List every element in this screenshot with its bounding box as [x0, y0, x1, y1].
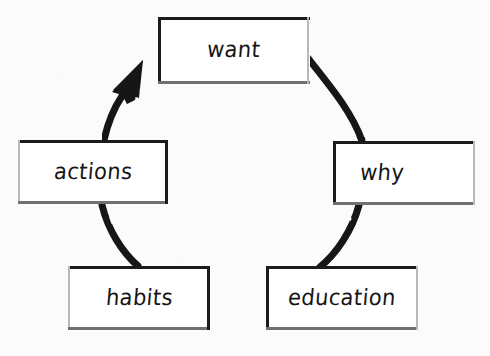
- node-why[interactable]: why: [333, 141, 475, 205]
- node-actions-border-left: [18, 140, 20, 204]
- node-actions[interactable]: actions: [18, 140, 168, 204]
- node-want-border-left: [158, 17, 161, 84]
- node-want-border-top: [158, 17, 310, 20]
- node-why-border-left: [333, 141, 336, 205]
- node-habits-border-top: [68, 266, 210, 269]
- node-why-border-right: [473, 141, 475, 205]
- node-education[interactable]: education: [266, 266, 418, 330]
- cycle-arrowhead-icon: [112, 60, 143, 104]
- node-actions-border-right: [165, 140, 168, 204]
- connector-why-to-education: [320, 205, 359, 267]
- connector-want-to-why: [307, 57, 362, 141]
- node-education-border-right: [416, 266, 418, 330]
- node-why-label: why: [359, 162, 405, 184]
- node-education-border-left: [266, 266, 269, 330]
- node-habits-border-left: [68, 266, 70, 330]
- connector-actions-to-want: [104, 96, 122, 140]
- node-why-border-bottom: [333, 202, 475, 205]
- cycle-arrowhead-fill-icon: [113, 60, 143, 98]
- node-education-border-bottom: [266, 327, 418, 330]
- node-habits[interactable]: habits: [68, 266, 210, 330]
- node-actions-border-top: [18, 140, 168, 143]
- node-habits-label: habits: [105, 287, 174, 309]
- node-want-border-right: [307, 17, 309, 84]
- connector-habits-to-actions: [102, 205, 138, 266]
- node-education-border-top: [266, 266, 418, 269]
- node-want-label: want: [206, 39, 261, 61]
- node-habits-border-bottom: [68, 327, 210, 330]
- node-education-label: education: [287, 287, 397, 309]
- node-actions-border-bottom: [18, 201, 168, 204]
- node-want[interactable]: want: [158, 17, 310, 84]
- node-want-border-bottom: [158, 81, 310, 84]
- node-why-border-top: [333, 141, 475, 144]
- node-actions-label: actions: [53, 161, 133, 183]
- node-habits-border-right: [207, 266, 210, 330]
- cycle-diagram-canvas: want why education habits actions: [0, 0, 490, 356]
